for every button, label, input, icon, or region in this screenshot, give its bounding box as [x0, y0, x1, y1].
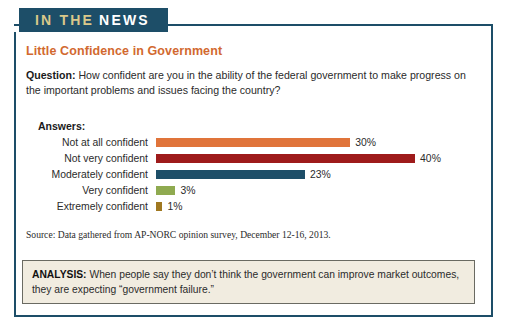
bar-segment [156, 170, 305, 179]
bar-track: 40% [156, 150, 486, 166]
frame-bottom-border [14, 315, 493, 317]
analysis-label: ANALYSIS: [32, 269, 87, 280]
banner-text-news: NEWS [94, 13, 150, 27]
answers-label: Answers: [38, 120, 85, 132]
in-the-news-figure: IN THE NEWS Little Confidence in Governm… [0, 0, 507, 329]
question-block: Question: How confident are you in the a… [26, 68, 476, 98]
bar-segment [156, 138, 350, 147]
bar-row: Very confident3% [26, 182, 486, 198]
bar-category-label: Not at all confident [26, 137, 156, 148]
bar-value-label: 23% [305, 169, 331, 180]
bar-category-label: Very confident [26, 185, 156, 196]
source-note: Source: Data gathered from AP-NORC opini… [26, 229, 331, 240]
bar-category-label: Not very confident [26, 153, 156, 164]
bar-segment [156, 186, 175, 195]
bar-row: Extremely confident1% [26, 198, 486, 214]
bar-value-label: 3% [175, 185, 195, 196]
bar-value-label: 30% [350, 137, 376, 148]
banner-text-in-the: IN THE [35, 13, 94, 27]
in-the-news-banner: IN THE NEWS [19, 8, 168, 32]
bar-row: Not very confident40% [26, 150, 486, 166]
question-text: How confident are you in the ability of … [26, 69, 466, 96]
frame-left-border [14, 32, 16, 317]
frame-right-border [491, 24, 493, 317]
bar-category-label: Extremely confident [26, 201, 156, 212]
bar-track: 23% [156, 166, 486, 182]
analysis-text: When people say they don’t think the gov… [32, 269, 459, 295]
question-label: Question: [26, 69, 75, 81]
bar-value-label: 1% [162, 201, 182, 212]
bar-value-label: 40% [415, 153, 441, 164]
page-title: Little Confidence in Government [26, 44, 222, 58]
analysis-body: ANALYSIS: When people say they don’t thi… [32, 268, 464, 297]
bar-track: 3% [156, 182, 486, 198]
analysis-box: ANALYSIS: When people say they don’t thi… [22, 260, 475, 304]
bar-category-label: Moderately confident [26, 169, 156, 180]
bar-row: Not at all confident30% [26, 134, 486, 150]
bar-chart: Not at all confident30%Not very confiden… [26, 134, 486, 214]
bar-track: 1% [156, 198, 486, 214]
bar-row: Moderately confident23% [26, 166, 486, 182]
bar-segment [156, 154, 415, 163]
bar-track: 30% [156, 134, 486, 150]
